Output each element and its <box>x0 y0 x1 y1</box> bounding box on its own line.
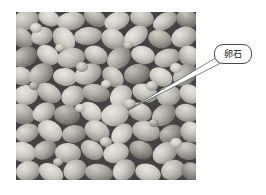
figure-root: 卵石 <box>0 0 266 195</box>
pebble-callout-label: 卵石 <box>215 45 251 63</box>
pebble-callout-box: 卵石 <box>214 44 252 64</box>
pebble-aggregate-photo <box>16 12 196 180</box>
pebble-photo-graphic <box>16 12 196 180</box>
